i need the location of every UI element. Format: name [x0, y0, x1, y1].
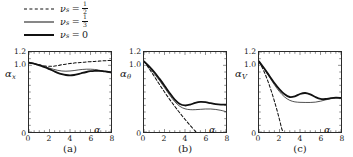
thin-solid-line-swatch-icon	[24, 17, 54, 27]
x-tick-label: 0	[256, 135, 261, 143]
legend-equals: =	[72, 4, 80, 14]
plot-area-b	[143, 51, 227, 133]
x-tick-label: 4	[68, 135, 73, 143]
x-axis-title-c: α	[324, 125, 330, 135]
y-tick-label: 1.2	[14, 48, 26, 56]
panel-caption-b: (b)	[143, 144, 227, 154]
legend-symbol: ν	[60, 30, 66, 40]
x-tick-label: 4	[183, 135, 188, 143]
legend-symbol-subscript: s	[66, 33, 69, 40]
x-tick-label: 0	[141, 135, 146, 143]
legend-item-nu-s-zero: νs=0	[24, 28, 88, 41]
legend-symbol-subscript: s	[66, 7, 69, 14]
fraction-denominator: 3	[82, 21, 88, 29]
y-tick-label: 1.0	[244, 61, 256, 69]
legend-value: 0	[82, 30, 88, 40]
legend-label-nu-s-one-third: νs=13	[60, 15, 88, 29]
x-axis-title-a: α	[94, 125, 100, 135]
legend-value-fraction: 13	[82, 14, 88, 28]
x-tick-label: 2	[47, 135, 52, 143]
dashed-line-swatch-icon	[24, 4, 54, 14]
x-tick-label: 4	[298, 135, 303, 143]
plot-area-a	[28, 51, 112, 133]
y-tick-label: 1.2	[244, 48, 256, 56]
legend-label-nu-s-zero: νs=0	[60, 30, 88, 40]
x-tick-label: 2	[162, 135, 167, 143]
x-tick-label: 2	[277, 135, 282, 143]
series-line	[144, 61, 226, 105]
chart-panel-a: αx 1.2 1.0 0 α 02468 (a)	[2, 47, 115, 157]
legend-symbol: ν	[60, 4, 66, 14]
y-tick-labels-c: 1.2 1.0 0	[232, 51, 256, 133]
x-tick-label: 8	[340, 135, 345, 143]
chart-panel-b: αθ 1.2 1.0 0 α 02468 (b)	[117, 47, 230, 157]
x-axis-title-b: α	[209, 125, 215, 135]
y-tick-labels-b: 1.2 1.0 0	[117, 51, 141, 133]
series-line	[144, 61, 196, 132]
panel-caption-c: (c)	[258, 144, 342, 154]
legend-equals: =	[72, 30, 80, 40]
y-tick-labels-a: 1.2 1.0 0	[2, 51, 26, 133]
plot-svg-a	[29, 52, 111, 132]
legend-item-nu-s-one-third: νs=13	[24, 15, 88, 28]
legend-symbol-subscript: s	[66, 20, 69, 27]
series-line	[259, 62, 283, 132]
series-line	[29, 63, 111, 76]
y-tick-label: 1.0	[14, 61, 26, 69]
plot-area-c	[258, 51, 342, 133]
y-tick-label: 1.2	[129, 48, 141, 56]
plot-svg-b	[144, 52, 226, 132]
x-tick-label: 8	[110, 135, 115, 143]
chart-panel-c: αV 1.2 1.0 0 α 02468 (c)	[232, 47, 345, 157]
legend: νs=12 νs=13 νs=0	[24, 2, 154, 42]
series-line	[259, 61, 341, 99]
x-tick-label: 6	[204, 135, 209, 143]
x-tick-label: 0	[26, 135, 31, 143]
legend-equals: =	[72, 17, 80, 27]
series-line	[259, 61, 341, 102]
thick-solid-line-swatch-icon	[24, 30, 54, 40]
x-tick-label: 6	[319, 135, 324, 143]
x-tick-label: 8	[225, 135, 230, 143]
y-tick-label: 1.0	[129, 61, 141, 69]
legend-symbol: ν	[60, 17, 66, 27]
panel-caption-a: (a)	[28, 144, 112, 154]
legend-item-nu-s-one-half: νs=12	[24, 2, 88, 15]
x-tick-label: 6	[89, 135, 94, 143]
plot-svg-c	[259, 52, 341, 132]
